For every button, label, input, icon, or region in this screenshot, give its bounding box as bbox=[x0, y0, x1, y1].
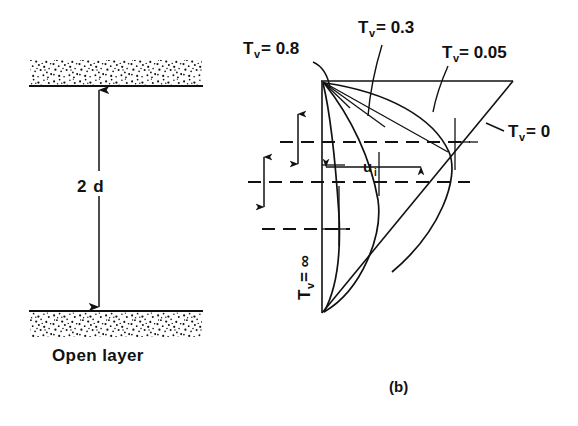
label-tv-0-symbol: T bbox=[508, 122, 519, 141]
label-tv-inf-sub: v bbox=[304, 282, 316, 289]
label-tv-0-8-symbol: T bbox=[243, 39, 254, 58]
bottom-soil-layer bbox=[29, 311, 203, 337]
label-tv-0-value: = 0 bbox=[526, 122, 550, 141]
left-panel-group: 2 d Open layer bbox=[29, 60, 203, 365]
label-tv-0-05-symbol: T bbox=[442, 43, 453, 62]
top-layer-stipple bbox=[30, 60, 202, 85]
label-tv-0-05-value: = 0.05 bbox=[459, 43, 507, 62]
figure-container: 2 d Open layer bbox=[0, 0, 578, 426]
label-tv-0-05: T v = 0.05 bbox=[442, 43, 507, 64]
label-tv-0-8: T v = 0.8 bbox=[243, 39, 299, 60]
dimension-label-2d: 2 d bbox=[77, 177, 105, 196]
bottom-layer-stipple bbox=[30, 312, 202, 337]
velocity-label-ui-sub: i bbox=[374, 167, 377, 178]
isochrone-curve-tv-0-8 bbox=[323, 83, 339, 312]
leader-line-tv-0-05 bbox=[433, 66, 448, 112]
label-tv-0-sub: v bbox=[519, 131, 526, 143]
top-soil-layer bbox=[29, 60, 203, 86]
label-tv-0-3-value: = 0.3 bbox=[376, 18, 414, 37]
label-tv-infinity: T v = ∞ bbox=[295, 255, 316, 300]
right-panel-group: u i T v = 0.8 T v = bbox=[243, 18, 550, 395]
label-tv-0-3: T v = 0.3 bbox=[358, 18, 414, 39]
velocity-label-ui: u bbox=[363, 158, 372, 175]
figure-canvas: 2 d Open layer bbox=[0, 0, 578, 426]
label-tv-0-3-sub: v bbox=[369, 27, 376, 39]
label-tv-inf-value: = ∞ bbox=[295, 255, 314, 282]
figure-caption-b: (b) bbox=[389, 378, 408, 395]
label-tv-0-3-symbol: T bbox=[358, 18, 369, 37]
label-tv-0: T v = 0 bbox=[508, 122, 550, 143]
label-tv-0-8-value: = 0.8 bbox=[261, 39, 299, 58]
label-tv-inf-symbol: T bbox=[295, 289, 314, 300]
label-tv-0-8-sub: v bbox=[254, 48, 261, 60]
leader-line-tv-0 bbox=[486, 123, 504, 131]
open-layer-caption: Open layer bbox=[52, 346, 144, 365]
